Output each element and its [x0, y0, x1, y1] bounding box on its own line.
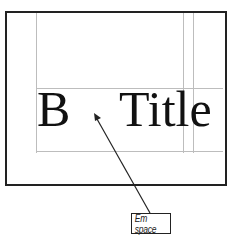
glyph-b: B	[37, 84, 70, 134]
callout-label-box: Em space	[131, 213, 171, 234]
callout-label: Em space	[135, 213, 167, 235]
em-space-diagram: B Title Em space	[0, 0, 231, 239]
guide-bottom-horizontal	[36, 151, 223, 152]
glyph-title: Title	[119, 84, 212, 134]
